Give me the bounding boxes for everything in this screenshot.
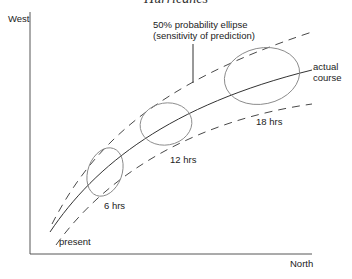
actual-course-line — [50, 70, 312, 232]
hurricane-track-diagram — [0, 0, 352, 279]
label-6hrs: 6 hrs — [104, 200, 125, 211]
ellipse-6hrs — [80, 143, 129, 202]
course-label-line1: actual — [313, 61, 338, 72]
y-axis-label: West — [8, 13, 29, 24]
present-label: present — [59, 236, 91, 247]
ellipse-18hrs — [219, 41, 305, 112]
annotation-line2: (sensitivity of prediction) — [153, 30, 255, 41]
ellipse-12hrs — [137, 99, 196, 149]
annotation-line1: 50% probability ellipse — [153, 19, 248, 30]
x-axis-label: North — [290, 258, 313, 269]
course-label-line2: course — [313, 72, 342, 83]
label-12hrs: 12 hrs — [170, 154, 196, 165]
label-18hrs: 18 hrs — [256, 116, 282, 127]
upper-uncertainty-bound — [52, 32, 312, 224]
